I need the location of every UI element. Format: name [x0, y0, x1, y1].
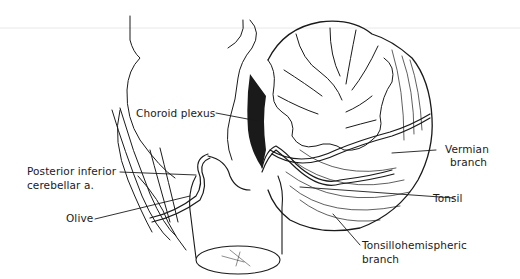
label-tonsillohemispheric-line2: branch — [362, 253, 399, 266]
label-choroid-plexus: Choroid plexus — [136, 107, 215, 120]
pica-vessel — [150, 114, 430, 222]
label-pica-line2: cerebellar a. — [27, 179, 94, 192]
brainstem-outline — [117, 16, 256, 250]
leader-pica — [120, 172, 196, 175]
leader-tonsillohemispheric — [333, 214, 360, 245]
label-vermian-branch-line1: Vermian — [445, 143, 489, 156]
label-pica-line1: Posterior inferior — [27, 165, 116, 178]
label-tonsillohemispheric-line1: Tonsillohemispheric — [362, 239, 467, 252]
label-olive: Olive — [66, 212, 93, 225]
label-tonsil: Tonsil — [433, 192, 463, 205]
anatomy-diagram: Choroid plexus Vermian branch Posterior … — [0, 0, 520, 279]
leader-olive — [95, 196, 190, 219]
diagram-artwork — [0, 0, 520, 279]
label-vermian-branch-line2: branch — [450, 156, 487, 169]
vermis-folia — [268, 28, 393, 150]
leader-tonsil — [300, 187, 454, 198]
